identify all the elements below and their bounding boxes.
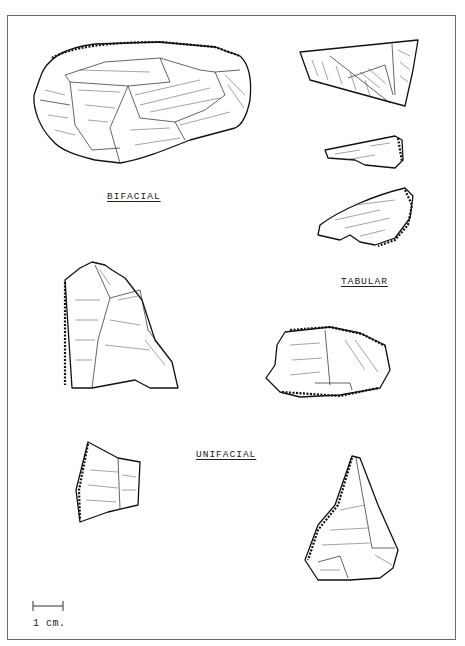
artifact-bifacial-large <box>34 42 251 163</box>
artifact-drawings <box>0 0 465 646</box>
scale-label: 1 cm. <box>33 618 66 629</box>
artifact-tabular-2 <box>325 136 403 168</box>
artifact-unifacial-3 <box>305 456 398 580</box>
artifact-unifacial-2 <box>76 442 140 522</box>
scale-bar <box>33 601 63 611</box>
artifact-tabular-3 <box>318 188 413 246</box>
artifact-tabular-4 <box>266 327 390 397</box>
label-tabular: TABULAR <box>341 276 388 287</box>
artifact-unifacial-1 <box>65 262 178 388</box>
artifact-tabular-1 <box>300 40 418 106</box>
label-unifacial: UNIFACIAL <box>196 449 256 460</box>
label-bifacial: BIFACIAL <box>107 191 161 202</box>
